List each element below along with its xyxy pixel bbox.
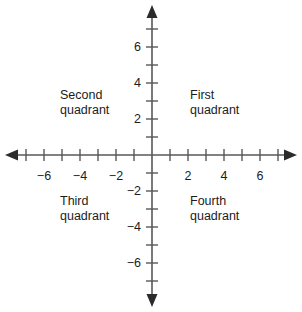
x-tick-label-pos2: 2 [185,170,192,183]
x-tick-label-pos6: 6 [257,170,264,183]
axes-svg [0,0,302,312]
x-tick-label-pos4: 4 [221,170,228,183]
y-axis-up-arrow-icon [147,5,158,18]
y-tick-label-neg2: −2 [127,185,141,198]
second-quadrant-line2: quadrant [60,103,109,118]
fourth-quadrant-line1: Fourth [190,194,239,209]
second-quadrant-label: Second quadrant [60,88,109,117]
first-quadrant-line2: quadrant [190,103,239,118]
x-tick-label-neg2: −2 [109,170,123,183]
y-tick-label-pos6: 6 [134,41,141,54]
y-tick-label-neg6: −6 [127,257,141,270]
x-axis-left-arrow-icon [5,150,18,161]
fourth-quadrant-label: Fourth quadrant [190,194,239,223]
third-quadrant-label: Third quadrant [60,194,109,223]
third-quadrant-line1: Third [60,194,109,209]
y-tick-label-pos4: 4 [134,77,141,90]
first-quadrant-line1: First [190,88,239,103]
first-quadrant-label: First quadrant [190,88,239,117]
y-tick-label-pos2: 2 [134,113,141,126]
third-quadrant-line2: quadrant [60,209,109,224]
y-axis-down-arrow-icon [147,294,158,307]
y-tick-label-neg4: −4 [127,221,141,234]
x-tick-label-neg6: −6 [37,170,51,183]
coordinate-plane-figure: −6 −4 −2 2 4 6 6 4 2 −2 −4 −6 Second qua… [0,0,302,312]
x-axis-right-arrow-icon [284,150,297,161]
x-tick-label-neg4: −4 [73,170,87,183]
fourth-quadrant-line2: quadrant [190,209,239,224]
second-quadrant-line1: Second [60,88,109,103]
